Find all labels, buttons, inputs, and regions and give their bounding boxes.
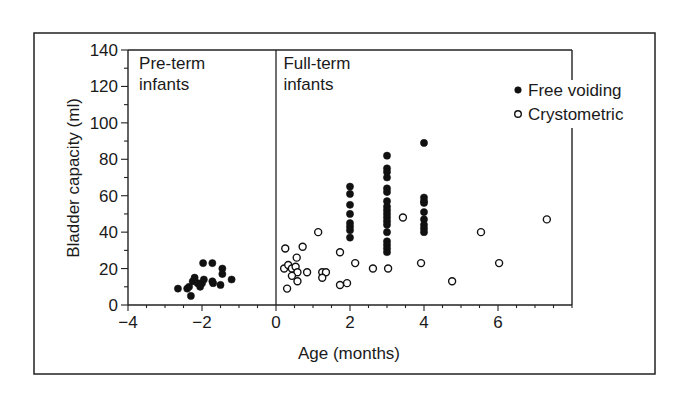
x-tick-label: 4 [419, 313, 428, 332]
crystometric-point [284, 285, 291, 292]
free-voiding-point [383, 188, 390, 195]
free-voiding-point [219, 270, 226, 277]
crystometric-point [293, 254, 300, 261]
crystometric-point [337, 249, 344, 256]
crystometric-point [344, 280, 351, 287]
preterm-label: infants [139, 75, 189, 94]
y-tick-label: 120 [90, 77, 118, 96]
crystometric-point [288, 272, 295, 279]
crystometric-point [385, 265, 392, 272]
chart: −4−20246020406080100120140 Pre-terminfan… [0, 0, 678, 395]
data-points [174, 139, 550, 299]
y-tick-label: 100 [90, 114, 118, 133]
free-voiding-point [346, 190, 353, 197]
legend-label-crystometric: Crystometric [528, 105, 624, 124]
y-tick-label: 0 [109, 296, 118, 315]
free-voiding-point [420, 209, 427, 216]
y-tick-label: 80 [99, 150, 118, 169]
free-voiding-point [346, 210, 353, 217]
crystometric-point [352, 260, 359, 267]
legend: Free voiding Crystometric [515, 81, 624, 124]
free-voiding-point [383, 229, 390, 236]
x-tick-label: −4 [118, 313, 137, 332]
region-labels: Pre-terminfantsFull-terminfants [139, 54, 350, 94]
crystometric-point [299, 243, 306, 250]
free-voiding-point [228, 276, 235, 283]
y-tick-label: 60 [99, 187, 118, 206]
free-voiding-point [420, 139, 427, 146]
free-voiding-point [346, 234, 353, 241]
x-tick-label: 0 [271, 313, 280, 332]
free-voiding-point [346, 227, 353, 234]
x-tick-label: 6 [493, 313, 502, 332]
free-voiding-point [420, 229, 427, 236]
fullterm-label: Full-term [283, 54, 350, 73]
free-voiding-point [383, 152, 390, 159]
preterm-label: Pre-term [139, 54, 205, 73]
free-voiding-point [209, 278, 216, 285]
free-voiding-point [174, 285, 181, 292]
legend-label-free-voiding: Free voiding [528, 81, 622, 100]
legend-marker-free-voiding [515, 87, 522, 94]
y-tick-label: 140 [90, 41, 118, 60]
free-voiding-point [420, 199, 427, 206]
crystometric-point [294, 278, 301, 285]
crystometric-point [496, 260, 503, 267]
x-axis-title: Age (months) [298, 344, 400, 363]
crystometric-point [282, 245, 289, 252]
free-voiding-point [200, 260, 207, 267]
x-tick-label: −2 [192, 313, 211, 332]
crystometric-point [543, 216, 550, 223]
legend-marker-crystometric [515, 111, 522, 118]
plot-area [128, 50, 572, 305]
y-tick-label: 20 [99, 260, 118, 279]
free-voiding-point [346, 201, 353, 208]
crystometric-point [477, 229, 484, 236]
crystometric-point [418, 260, 425, 267]
free-voiding-point [383, 249, 390, 256]
crystometric-point [315, 229, 322, 236]
free-voiding-point [346, 183, 353, 190]
fullterm-label: infants [283, 75, 333, 94]
free-voiding-point [209, 260, 216, 267]
free-voiding-point [200, 276, 207, 283]
free-voiding-point [383, 174, 390, 181]
y-axis-title: Bladder capacity (ml) [64, 98, 83, 258]
crystometric-point [449, 278, 456, 285]
free-voiding-point [187, 292, 194, 299]
free-voiding-point [217, 281, 224, 288]
crystometric-point [319, 274, 326, 281]
free-voiding-point [383, 221, 390, 228]
crystometric-point [304, 269, 311, 276]
x-tick-label: 2 [345, 313, 354, 332]
crystometric-point [399, 214, 406, 221]
crystometric-point [369, 265, 376, 272]
y-tick-label: 40 [99, 223, 118, 242]
crystometric-point [337, 281, 344, 288]
